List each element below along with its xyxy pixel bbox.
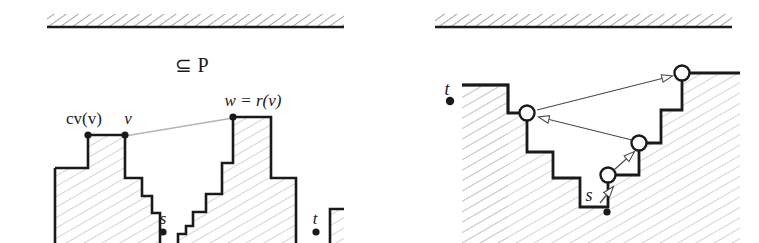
vertex-dot-w (229, 113, 236, 120)
figure-container: ⊆ P cv(v) v w = r(v) s t (0, 0, 759, 243)
s-label-left: s (160, 209, 167, 228)
w-equals-r-v-label: w = r(v) (225, 91, 282, 110)
left-corner-piece-fill (330, 209, 344, 243)
vertex-dot-s-right (603, 208, 610, 215)
left-ceiling (47, 14, 344, 27)
guard-node-low[interactable] (601, 168, 616, 183)
right-ceiling (435, 14, 732, 27)
subset-p-label: ⊆ P (175, 54, 208, 76)
vertex-dot-t-left (312, 228, 319, 235)
s-label-right: s (585, 185, 592, 205)
vertex-dot-s-left (159, 228, 166, 235)
right-ceiling-hatch (435, 14, 732, 26)
v-label: v (124, 109, 132, 128)
left-ceiling-hatch (47, 14, 344, 26)
vertex-dot-cv-v (84, 131, 91, 138)
cv-v-label: cv(v) (66, 109, 102, 128)
vertex-dot-v (121, 131, 128, 138)
guard-node-mid[interactable] (632, 136, 647, 151)
guard-node-right[interactable] (675, 66, 690, 81)
figure-svg: ⊆ P cv(v) v w = r(v) s t (0, 0, 759, 243)
guard-node-left[interactable] (520, 106, 535, 121)
